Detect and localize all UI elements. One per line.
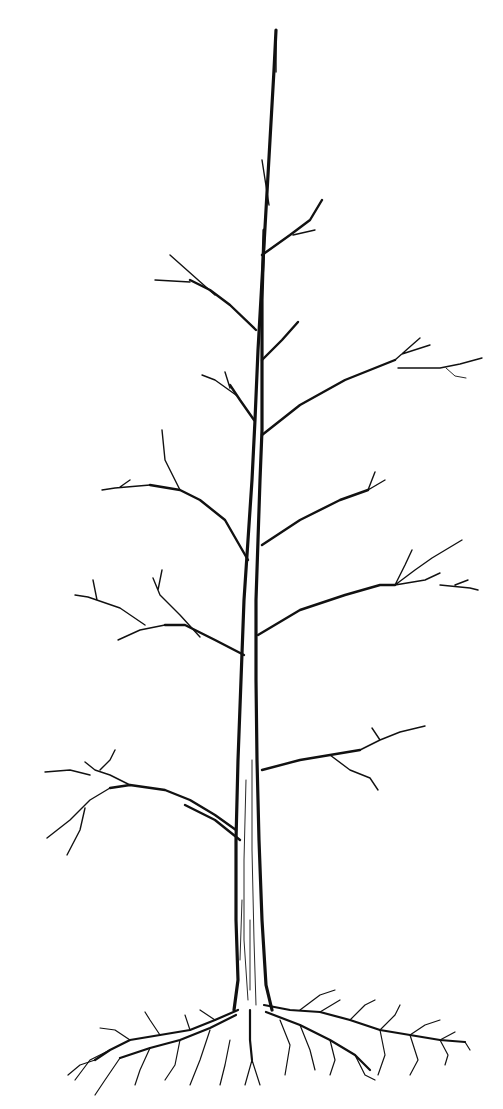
upper-branches (155, 160, 482, 435)
trunk (234, 30, 276, 1010)
middle-branches (75, 430, 478, 655)
tree-illustration (0, 0, 503, 1109)
lower-branches (45, 726, 425, 855)
roots (68, 990, 470, 1095)
tree-drawing (0, 0, 503, 1109)
